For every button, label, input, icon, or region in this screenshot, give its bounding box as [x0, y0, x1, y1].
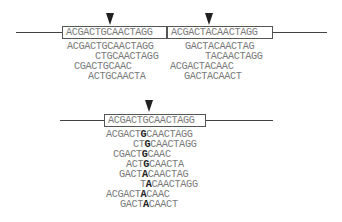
- reference-sequence: ACGACTGCAACTAGG: [66, 28, 152, 38]
- genome-line-left: [60, 120, 106, 121]
- reference-copy-left: ACGACTGCAACTAGG: [62, 26, 167, 39]
- reference-copy: ACGACTGCAACTAGG: [104, 114, 206, 127]
- reference-sequence: ACGACTACAACTAGG: [171, 28, 257, 38]
- variant-arrow-icon: [106, 13, 114, 25]
- reference-copy-right: ACGACTACAACTAGG: [167, 26, 273, 39]
- read: GACTACAACT: [120, 200, 178, 210]
- variant-arrow-icon: [205, 13, 213, 25]
- read: GACTACAACT: [184, 72, 242, 82]
- genome-line-left: [16, 32, 62, 33]
- read: ACTGCAACTA: [88, 72, 146, 82]
- reference-sequence: ACGACTGCAACTAGG: [108, 116, 194, 126]
- genome-line-right: [273, 32, 327, 33]
- genome-line-right: [205, 120, 273, 121]
- variant-arrow-icon: [145, 100, 153, 112]
